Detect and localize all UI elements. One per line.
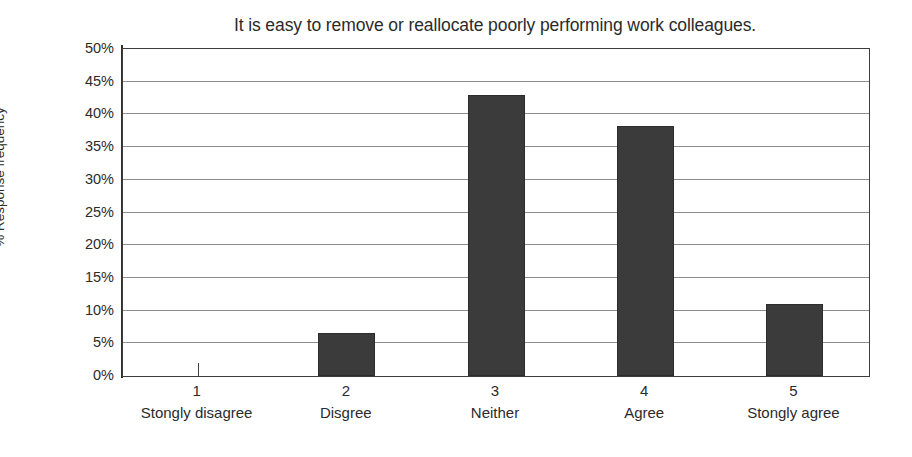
x-axis-category: 4Agree [570, 378, 719, 448]
x-axis-category-number: 2 [271, 380, 420, 402]
x-axis-category-description: Neither [420, 402, 569, 424]
x-axis-category-description: Stongly agree [719, 402, 868, 424]
y-axis-title: % Response frequency [0, 12, 12, 342]
y-axis-tick-label: 40% [58, 106, 114, 120]
chart-title: It is easy to remove or reallocate poorl… [122, 14, 868, 36]
y-axis-tick-label: 15% [58, 270, 114, 284]
x-axis-category-description: Disgree [271, 402, 420, 424]
y-axis-tick-label: 0% [58, 368, 114, 382]
x-axis-category: 1Stongly disagree [122, 378, 271, 448]
y-axis-tick-label: 10% [58, 303, 114, 317]
y-axis-tick-label: 20% [58, 237, 114, 251]
bar [468, 95, 525, 376]
x-axis-category-description: Stongly disagree [122, 402, 271, 424]
x-axis-category-number: 5 [719, 380, 868, 402]
y-axis-tick-label: 45% [58, 74, 114, 88]
x-axis-category-number: 3 [420, 380, 569, 402]
x-axis-category: 3Neither [420, 378, 569, 448]
x-axis-category: 5Stongly agree [719, 378, 868, 448]
y-axis-tick-labels: 50%45%40%35%30%25%20%15%10%5%0% [52, 0, 114, 457]
plot-area [122, 48, 870, 377]
x-axis-category: 2Disgree [271, 378, 420, 448]
x-axis-category-number: 4 [570, 380, 719, 402]
bar [318, 333, 375, 376]
x-axis-tick-labels: 1Stongly disagree2Disgree3Neither4Agree5… [122, 378, 868, 448]
x-axis-category-number: 1 [122, 380, 271, 402]
y-axis-tick-label: 5% [58, 335, 114, 349]
y-axis-tick-label: 50% [58, 41, 114, 55]
bar [617, 126, 674, 376]
chart-figure: It is easy to remove or reallocate poorl… [0, 0, 912, 457]
gridline [123, 81, 869, 82]
bar [766, 304, 823, 376]
y-axis-tick-label: 30% [58, 172, 114, 186]
x-axis-tick-mark [198, 363, 199, 376]
y-axis-tick-label: 25% [58, 205, 114, 219]
x-axis-category-description: Agree [570, 402, 719, 424]
y-axis-tick-label: 35% [58, 139, 114, 153]
